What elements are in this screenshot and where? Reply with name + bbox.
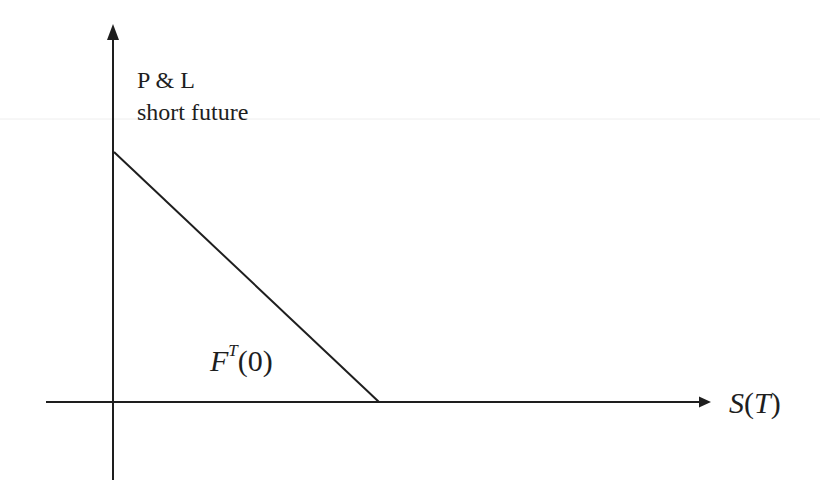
y-axis-label-line1: P & L [137, 68, 195, 92]
payoff-diagram [0, 0, 820, 504]
x-axis-label-open: ( [744, 386, 754, 419]
y-axis-label-line2: short future [137, 100, 248, 124]
forward-price-symbol: F [210, 344, 228, 377]
x-axis-label-var: S [729, 386, 744, 419]
forward-price-argument: (0) [238, 344, 273, 377]
x-axis-label: S(T) [729, 388, 781, 418]
x-axis-arrowhead-icon [699, 397, 711, 408]
y-axis-arrowhead-icon [107, 24, 119, 40]
forward-price-label: FT(0) [210, 346, 273, 376]
x-axis-label-arg: T [754, 386, 771, 419]
x-axis-label-close: ) [771, 386, 781, 419]
forward-price-superscript: T [228, 341, 237, 360]
